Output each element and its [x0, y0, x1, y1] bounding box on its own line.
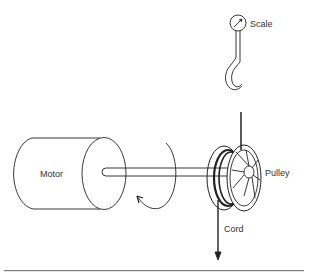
motor [14, 138, 126, 210]
scale [226, 15, 247, 90]
hook-icon [226, 58, 243, 90]
pulley-label: Pulley [265, 168, 290, 178]
cord-arrow-icon [215, 252, 221, 260]
scale-label: Scale [250, 19, 273, 29]
motor-label: Motor [40, 169, 63, 179]
pulley [207, 145, 261, 211]
diagram-canvas: Motor Pulley Scale Cord [0, 0, 312, 273]
cropped-caption-fragment [4, 270, 304, 271]
cord-label: Cord [224, 224, 244, 234]
motor-pulley-diagram: Motor Pulley Scale Cord [0, 0, 312, 273]
